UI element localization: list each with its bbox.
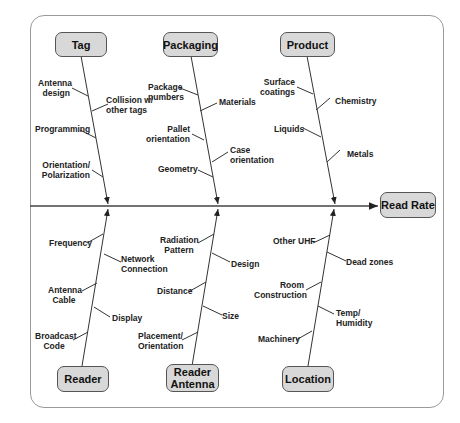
- cause-label: Antenna Cable: [48, 285, 80, 305]
- category-box-tag: Tag: [55, 32, 107, 57]
- cause-label: Geometry: [158, 164, 198, 174]
- cause-text: Surface: [258, 77, 295, 87]
- box-label: Antenna: [171, 378, 215, 390]
- cause-label: Size: [222, 311, 239, 321]
- effect-box-read-rate: Read Rate: [380, 192, 436, 218]
- cause-text: Orientation/: [40, 160, 90, 170]
- cause-text: Radiation: [160, 235, 198, 245]
- cause-text: Broadcast: [35, 331, 73, 341]
- cause-label: Temp/ Humidity: [336, 308, 372, 328]
- cause-label: Frequency: [49, 238, 92, 248]
- cause-text: Orientation: [138, 341, 180, 351]
- cause-text: Antenna: [38, 78, 70, 88]
- cause-text: Temp/: [336, 308, 372, 318]
- cause-text: Construction: [254, 290, 304, 300]
- cause-label: Display: [112, 313, 142, 323]
- cause-label: Surface coatings: [258, 77, 295, 97]
- cause-text: Placement/: [138, 331, 180, 341]
- cause-text: coatings: [258, 87, 295, 97]
- cause-text: Connection: [121, 264, 168, 274]
- cause-text: numbers: [148, 92, 180, 102]
- cause-text: Humidity: [336, 318, 372, 328]
- cause-text: Cable: [48, 295, 80, 305]
- cause-label: Collision w/ other tags: [106, 95, 153, 115]
- cause-text: Pallet: [140, 124, 190, 134]
- cause-label: Case orientation: [230, 145, 274, 165]
- category-box-reader: Reader: [57, 366, 109, 392]
- cause-label: Package numbers: [148, 82, 180, 102]
- category-box-location: Location: [282, 366, 334, 392]
- cause-label: Liquids: [274, 124, 304, 134]
- cause-label: Distance: [157, 286, 192, 296]
- cause-text: Collision w/: [106, 95, 153, 105]
- cause-label: Metals: [347, 149, 373, 159]
- cause-text: Case: [230, 145, 274, 155]
- cause-label: Pallet orientation: [140, 124, 190, 144]
- category-box-packaging: Packaging: [163, 32, 218, 57]
- cause-text: Antenna: [48, 285, 80, 295]
- box-label: Reader: [174, 366, 211, 378]
- cause-label: Radiation Pattern: [160, 235, 198, 255]
- cause-text: Room: [254, 280, 304, 290]
- cause-label: Broadcast Code: [35, 331, 73, 351]
- cause-label: Network Connection: [121, 254, 168, 274]
- cause-label: Orientation/ Polarization: [40, 160, 90, 180]
- category-box-reader-antenna: Reader Antenna: [166, 364, 219, 392]
- cause-label: Machinery: [258, 334, 300, 344]
- cause-label: Design: [231, 259, 259, 269]
- cause-label: Antenna design: [38, 78, 70, 98]
- cause-text: Pattern: [160, 245, 198, 255]
- cause-text: orientation: [140, 134, 190, 144]
- cause-text: orientation: [230, 155, 274, 165]
- cause-label: Dead zones: [346, 257, 393, 267]
- cause-text: Package: [148, 82, 180, 92]
- cause-text: design: [38, 88, 70, 98]
- cause-label: Chemistry: [335, 96, 377, 106]
- cause-label: Placement/ Orientation: [138, 331, 180, 351]
- cause-text: Code: [35, 341, 73, 351]
- cause-label: Materials: [219, 97, 256, 107]
- cause-text: other tags: [106, 105, 153, 115]
- cause-label: Other UHF: [273, 236, 316, 246]
- cause-label: Programming: [35, 124, 90, 134]
- category-box-product: Product: [280, 32, 335, 57]
- cause-text: Polarization: [40, 170, 90, 180]
- cause-label: Room Construction: [254, 280, 304, 300]
- cause-text: Network: [121, 254, 168, 264]
